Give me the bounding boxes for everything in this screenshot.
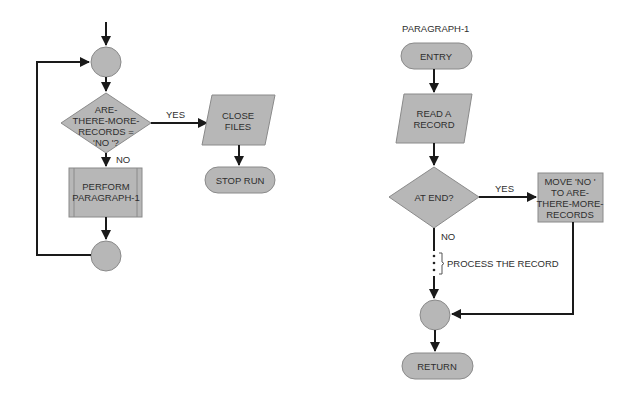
move-line-1: MOVE 'NO ' — [544, 176, 595, 187]
top-connector — [91, 47, 121, 77]
decision-text-line-4: 'NO '? — [93, 137, 119, 148]
paragraph-title: PARAGRAPH-1 — [402, 23, 469, 34]
move-line-2: TO ARE- — [551, 187, 589, 198]
close-files-line-2: FILES — [225, 121, 251, 132]
process-record-note: PROCESS THE RECORD — [447, 258, 559, 269]
paragraph-1-flow: PARAGRAPH-1 ENTRY READ A RECORD AT END? … — [389, 23, 604, 379]
perform-text-line-2: PARAGRAPH-1 — [72, 192, 139, 203]
at-end-no-label: NO — [441, 231, 455, 242]
entry-text: ENTRY — [420, 51, 453, 62]
yes-label: YES — [166, 109, 185, 120]
ellipsis-dot-3 — [433, 269, 436, 272]
decision-text-line-1: ARE- — [95, 104, 118, 115]
decision-text-line-2: THERE-MORE- — [72, 115, 139, 126]
ellipsis-dot-1 — [433, 255, 436, 258]
decision-text-line-3: RECORDS = — [78, 126, 134, 137]
return-text: RETURN — [417, 361, 457, 372]
move-line-4: RECORDS — [546, 209, 594, 220]
move-line-3: THERE-MORE- — [536, 198, 603, 209]
flowchart-diagram: ARE- THERE-MORE- RECORDS = 'NO '? YES NO… — [0, 0, 638, 399]
perform-text-line-1: PERFORM — [82, 181, 130, 192]
ellipsis-dot-2 — [433, 262, 436, 265]
close-files-line-1: CLOSE — [222, 110, 254, 121]
decision-at-end-text: AT END? — [414, 192, 453, 203]
read-record-line-1: READ A — [417, 108, 453, 119]
process-bracket — [439, 253, 444, 274]
read-record-line-2: RECORD — [413, 119, 454, 130]
bottom-connector — [91, 241, 121, 271]
merge-connector — [420, 300, 450, 330]
no-label: NO — [116, 154, 130, 165]
loop-back-arrow — [37, 62, 91, 255]
at-end-yes-label: YES — [495, 183, 514, 194]
stop-run-text: STOP RUN — [216, 175, 265, 186]
main-flow: ARE- THERE-MORE- RECORDS = 'NO '? YES NO… — [37, 22, 275, 271]
